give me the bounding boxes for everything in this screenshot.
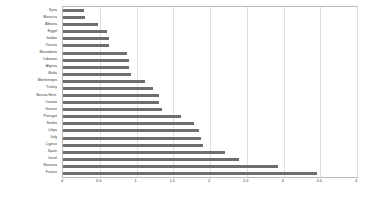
y-axis-label: Malta xyxy=(48,71,57,75)
bar-row xyxy=(63,28,357,35)
bar xyxy=(63,80,145,83)
y-axis-label: Slovenia xyxy=(43,163,57,167)
bar xyxy=(63,108,162,111)
x-tick-label: 1 xyxy=(134,178,136,184)
bar-row xyxy=(63,42,357,49)
bar-row xyxy=(63,64,357,71)
y-axis-label: Tunisia xyxy=(46,43,57,47)
bar-row xyxy=(63,113,357,120)
y-axis-label: Israel xyxy=(48,156,57,160)
bar xyxy=(63,158,239,161)
y-axis-label: Egypt xyxy=(48,29,57,33)
y-axis-label: France xyxy=(46,170,57,174)
bar-chart: SyriaMoroccoAlbaniaEgyptJordanTunisiaMac… xyxy=(0,0,374,198)
gridline xyxy=(357,7,358,177)
x-axis-tick-labels: 00.511.522.533.54 xyxy=(62,178,358,192)
bar-row xyxy=(63,135,357,142)
x-tick-label: 4 xyxy=(355,178,357,184)
y-axis-label: Greece xyxy=(45,107,57,111)
y-axis-label: Spain xyxy=(48,149,57,153)
x-tick-label: 1.5 xyxy=(169,178,175,184)
bar xyxy=(63,52,127,55)
bar-row xyxy=(63,57,357,64)
bar xyxy=(63,30,107,33)
y-axis-label: Portugal xyxy=(44,114,57,118)
bar xyxy=(63,66,129,69)
bar-row xyxy=(63,50,357,57)
bar xyxy=(63,73,131,76)
bar-row xyxy=(63,35,357,42)
bar-row xyxy=(63,142,357,149)
y-axis-label: Jordan xyxy=(46,36,57,40)
bar-row xyxy=(63,21,357,28)
bar xyxy=(63,165,278,168)
y-axis-label: Morocco xyxy=(43,15,57,19)
x-tick-label: 2.5 xyxy=(243,178,249,184)
y-axis-label: Turkey xyxy=(46,85,57,89)
bar xyxy=(63,37,109,40)
bar-row xyxy=(63,120,357,127)
y-axis-label: Croatia xyxy=(45,100,57,104)
bar-row xyxy=(63,7,357,14)
bar xyxy=(63,129,199,132)
y-axis-label: Italy xyxy=(50,135,57,139)
y-axis-label: Serbia xyxy=(47,121,57,125)
bar-row xyxy=(63,170,357,177)
bar-row xyxy=(63,149,357,156)
bar-row xyxy=(63,106,357,113)
y-axis-label: Lebanon xyxy=(43,57,57,61)
bar-row xyxy=(63,92,357,99)
y-axis-category-labels: SyriaMoroccoAlbaniaEgyptJordanTunisiaMac… xyxy=(0,6,60,178)
x-tick-label: 3 xyxy=(281,178,283,184)
x-tick-label: 0.5 xyxy=(96,178,102,184)
bar xyxy=(63,101,159,104)
bar xyxy=(63,16,85,19)
y-axis-label: Macedonia xyxy=(39,50,57,54)
plot-area xyxy=(62,6,358,178)
bar xyxy=(63,115,181,118)
y-axis-label: Albania xyxy=(45,22,57,26)
bar xyxy=(63,59,129,62)
bar-row xyxy=(63,127,357,134)
bar-row xyxy=(63,71,357,78)
bar-row xyxy=(63,78,357,85)
bar xyxy=(63,44,109,47)
bar-row xyxy=(63,85,357,92)
x-tick-label: 2 xyxy=(208,178,210,184)
bar xyxy=(63,144,203,147)
bar xyxy=(63,151,225,154)
y-axis-label: Cyprus xyxy=(46,142,57,146)
bar xyxy=(63,137,201,140)
bar xyxy=(63,172,317,175)
bar-row xyxy=(63,156,357,163)
y-axis-label: Bosnia-Herz. xyxy=(36,93,57,97)
bar xyxy=(63,94,159,97)
bar-row xyxy=(63,99,357,106)
bar xyxy=(63,87,153,90)
x-tick-label: 0 xyxy=(61,178,63,184)
bar-row xyxy=(63,163,357,170)
bar xyxy=(63,9,84,12)
y-axis-label: Libya xyxy=(48,128,57,132)
y-axis-label: Montenegro xyxy=(38,78,57,82)
y-axis-label: Algeria xyxy=(46,64,57,68)
bar xyxy=(63,122,194,125)
bar-row xyxy=(63,14,357,21)
x-tick-label: 3.5 xyxy=(316,178,322,184)
bar xyxy=(63,23,98,26)
y-axis-label: Syria xyxy=(49,8,57,12)
bars-layer xyxy=(63,7,357,177)
